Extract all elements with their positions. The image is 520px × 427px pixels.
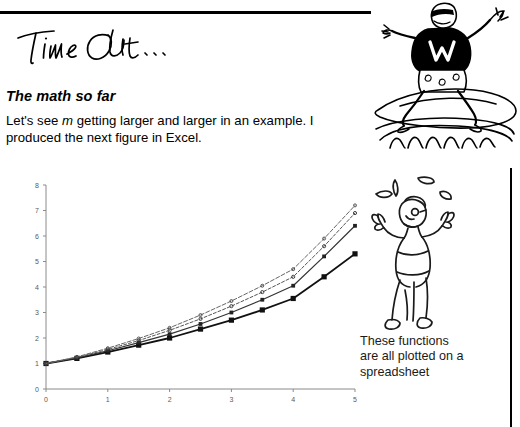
excel-line-chart: 012345678012345: [14, 176, 364, 408]
time-out-handwritten-note: [14, 24, 214, 70]
y-axis-tick-label: 2: [35, 335, 39, 342]
body-paragraph: Let's see m getting larger and larger in…: [6, 113, 358, 146]
x-axis-tick-label: 1: [106, 396, 110, 403]
chart-series-line: [44, 224, 357, 366]
x-axis-tick-label: 3: [229, 396, 233, 403]
y-axis-tick-label: 3: [35, 309, 39, 316]
y-axis-tick-label: 7: [35, 207, 39, 214]
right-margin-rule: [510, 168, 512, 427]
x-axis-tick-label: 4: [291, 396, 295, 403]
juggler-cartoon-icon: [358, 172, 478, 334]
section-heading: The math so far: [6, 88, 115, 104]
top-divider-rule: [0, 11, 371, 14]
y-axis-tick-label: 4: [35, 284, 39, 291]
body-lead-text: Let's see: [6, 113, 62, 128]
chart-series-line: [45, 204, 357, 365]
chart-caption: These functions are all plotted on a spr…: [360, 334, 470, 380]
surfer-cartoon-icon: [370, 0, 520, 150]
y-axis-tick-label: 6: [35, 233, 39, 240]
page-canvas: The math so far Let's see m getting larg…: [0, 0, 520, 427]
chart-series-line: [43, 251, 357, 366]
x-axis-tick-label: 2: [168, 396, 172, 403]
y-axis-tick-label: 0: [35, 386, 39, 393]
body-variable-m: m: [62, 113, 73, 128]
y-axis-tick-label: 1: [35, 360, 39, 367]
y-axis-tick-label: 8: [35, 182, 39, 189]
y-axis-tick-label: 5: [35, 258, 39, 265]
x-axis-tick-label: 5: [353, 396, 357, 403]
chart-series-line: [44, 211, 356, 365]
x-axis-tick-label: 0: [44, 396, 48, 403]
